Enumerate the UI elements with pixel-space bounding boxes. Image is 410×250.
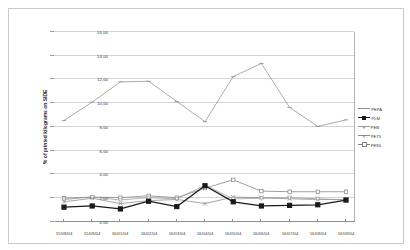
legend-marker-sample: [363, 126, 367, 129]
legend-item-label: PEPA: [371, 107, 382, 112]
data-point-marker: [260, 189, 263, 192]
data-point-marker: [288, 203, 292, 207]
legend-marker-sample: [363, 142, 368, 147]
data-point-marker: [344, 198, 348, 202]
data-point-marker: [90, 204, 94, 208]
y-axis-title: % of printed kilograms on SIDE: [42, 44, 48, 164]
legend-item[interactable]: PE90: [358, 140, 392, 149]
data-point-marker: [147, 199, 151, 203]
legend-item-label: PE75: [371, 134, 381, 139]
y-tick-mark: [50, 31, 54, 32]
legend-item[interactable]: PE75×: [358, 131, 392, 140]
y-tick-mark: [50, 174, 54, 175]
legend-item[interactable]: PEB: [358, 122, 392, 131]
y-tick-mark: [50, 197, 54, 198]
data-point-marker: [175, 204, 179, 208]
legend-marker-sample: [363, 116, 367, 120]
x-tick-label: 15/08/04: [44, 231, 84, 236]
legend-item-label: PLM: [371, 116, 380, 121]
y-tick-mark: [50, 79, 54, 80]
data-point-marker: [288, 190, 291, 193]
y-tick-mark: [50, 55, 54, 56]
data-point-marker: [316, 203, 320, 207]
data-point-marker: [259, 204, 263, 208]
y-tick-mark: [50, 150, 54, 151]
legend-item[interactable]: PEPA: [358, 104, 392, 113]
legend-item[interactable]: PLM: [358, 113, 392, 122]
chart-canvas: % of printed kilograms on SIDE 16/09/041…: [0, 0, 410, 250]
y-tick-mark: [50, 102, 54, 103]
data-point-marker: [344, 190, 347, 193]
data-point-marker: [231, 200, 235, 204]
legend-marker-sample: [363, 108, 367, 109]
series-line: [64, 63, 346, 126]
legend-item-label: PE90: [371, 143, 381, 148]
legend-item-label: PEB: [371, 125, 379, 130]
data-point-marker: [316, 190, 319, 193]
data-point-marker: [232, 178, 235, 181]
legend-marker-sample: ×: [363, 134, 366, 139]
series-lines: [55, 32, 355, 222]
data-point-marker: [203, 184, 207, 188]
chart-legend: PE90PE75×PEBPLMPEPA: [358, 104, 392, 149]
y-tick-mark: [50, 221, 54, 222]
data-point-marker: [62, 205, 66, 209]
data-point-marker: [118, 207, 122, 211]
y-tick-mark: [50, 126, 54, 127]
